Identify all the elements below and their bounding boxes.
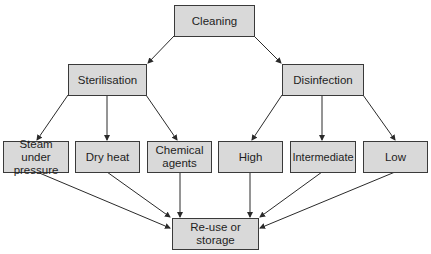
edge-cleaning-disinfection — [254, 36, 281, 63]
node-high: High — [218, 141, 283, 173]
edges-layer — [0, 0, 431, 254]
edge-sterilisation-steam — [37, 95, 68, 140]
edge-cleaning-sterilisation — [148, 36, 174, 63]
edge-sterilisation-chemical — [146, 95, 177, 140]
edge-intermediate-reuse — [260, 172, 322, 217]
node-disinfection: Disinfection — [282, 64, 364, 96]
node-chemical-agents: Chemical agents — [147, 141, 212, 173]
node-dry-heat: Dry heat — [75, 141, 140, 173]
node-steam-under-pressure: Steam under pressure — [3, 141, 69, 173]
node-re-use-or-storage: Re-use or storage — [172, 218, 259, 250]
edge-disinfection-low — [363, 95, 395, 140]
node-cleaning: Cleaning — [174, 5, 255, 37]
edge-disinfection-high — [252, 95, 282, 140]
node-sterilisation: Sterilisation — [68, 64, 147, 96]
node-low: Low — [363, 141, 428, 173]
edge-steam-reuse — [37, 172, 170, 228]
edge-low-reuse — [260, 172, 395, 228]
edge-dry-heat-reuse — [107, 172, 170, 217]
node-intermediate: Intermediate — [290, 141, 356, 173]
